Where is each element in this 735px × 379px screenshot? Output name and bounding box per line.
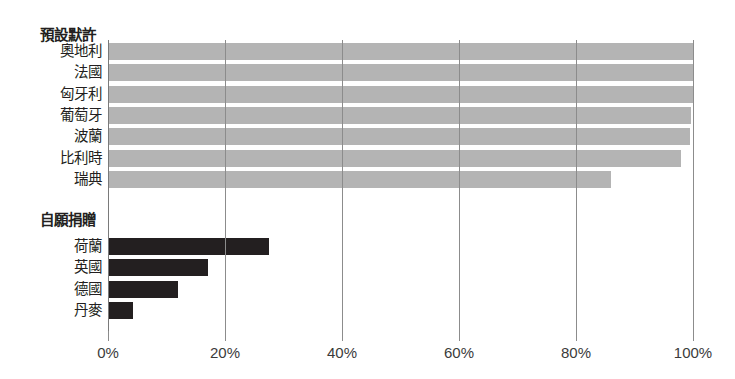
gridline-60pct <box>459 40 460 331</box>
gridline-20pct <box>225 40 226 331</box>
category-label-英國: 英國 <box>6 259 102 276</box>
bar-英國 <box>108 259 208 276</box>
x-tick-label-60pct: 60% <box>444 344 474 362</box>
category-label-column: 奧地利法國匈牙利葡萄牙波蘭比利時瑞典荷蘭英國德國丹麥 <box>0 40 102 331</box>
gridline-0pct <box>108 40 109 331</box>
bar-匈牙利 <box>108 86 693 103</box>
x-tick-label-0pct: 0% <box>97 344 119 362</box>
bars-layer <box>108 40 693 331</box>
category-label-葡萄牙: 葡萄牙 <box>6 107 102 124</box>
x-tick-label-20pct: 20% <box>210 344 240 362</box>
plot-area <box>108 40 693 331</box>
bar-法國 <box>108 64 693 81</box>
category-label-匈牙利: 匈牙利 <box>6 86 102 103</box>
x-tick-label-40pct: 40% <box>327 344 357 362</box>
gridline-80pct <box>576 40 577 331</box>
bar-德國 <box>108 281 178 298</box>
category-label-瑞典: 瑞典 <box>6 171 102 188</box>
x-tick-mark-0pct <box>108 331 109 341</box>
bar-波蘭 <box>108 128 690 145</box>
x-tick-label-100pct: 100% <box>674 344 712 362</box>
bar-丹麥 <box>108 302 133 319</box>
category-label-波蘭: 波蘭 <box>6 128 102 145</box>
x-tick-mark-100pct <box>693 331 694 341</box>
x-tick-label-80pct: 80% <box>561 344 591 362</box>
x-tick-mark-80pct <box>576 331 577 341</box>
category-label-比利時: 比利時 <box>6 150 102 167</box>
bar-瑞典 <box>108 171 611 188</box>
bar-奧地利 <box>108 43 693 60</box>
organ-donation-bar-chart: 預設默許 自願捐贈 奧地利法國匈牙利葡萄牙波蘭比利時瑞典荷蘭英國德國丹麥 0%2… <box>0 0 735 379</box>
category-label-荷蘭: 荷蘭 <box>6 238 102 255</box>
gridline-40pct <box>342 40 343 331</box>
bar-葡萄牙 <box>108 107 691 124</box>
category-label-德國: 德國 <box>6 281 102 298</box>
bar-比利時 <box>108 150 681 167</box>
x-tick-mark-20pct <box>225 331 226 341</box>
category-label-丹麥: 丹麥 <box>6 302 102 319</box>
x-tick-mark-60pct <box>459 331 460 341</box>
gridline-100pct <box>693 40 694 331</box>
category-label-法國: 法國 <box>6 64 102 81</box>
bar-荷蘭 <box>108 238 269 255</box>
x-tick-mark-40pct <box>342 331 343 341</box>
category-label-奧地利: 奧地利 <box>6 43 102 60</box>
